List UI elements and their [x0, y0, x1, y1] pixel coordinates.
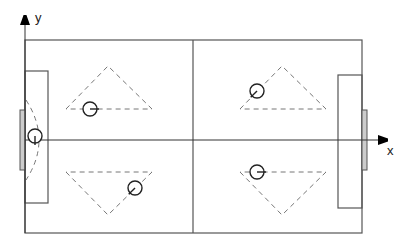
- player-attacker-bottom: [250, 165, 266, 179]
- player-attacker-top: [250, 84, 264, 98]
- x-axis-label: x: [387, 143, 394, 158]
- y-axis-label: y: [35, 10, 42, 25]
- player-defender-top: [83, 102, 99, 116]
- triangle-top-left: [66, 66, 152, 109]
- soccer-field-diagram: x y: [0, 0, 411, 249]
- penalty-box-right: [338, 75, 362, 208]
- goal-left: [20, 110, 25, 170]
- player-goalkeeper: [28, 129, 42, 145]
- player-defender-bottom: [128, 181, 142, 195]
